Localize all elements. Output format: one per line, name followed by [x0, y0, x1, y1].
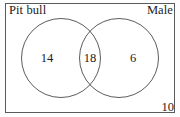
- region-count-outside: 10: [162, 101, 175, 114]
- region-count-right-only: 6: [130, 52, 136, 65]
- venn-diagram-figure: Pit bull Male 14 18 6 10: [0, 0, 180, 117]
- region-count-left-only: 14: [41, 52, 54, 65]
- set-label-right: Male: [147, 4, 173, 17]
- region-count-intersection: 18: [84, 52, 97, 65]
- set-label-left: Pit bull: [9, 4, 46, 17]
